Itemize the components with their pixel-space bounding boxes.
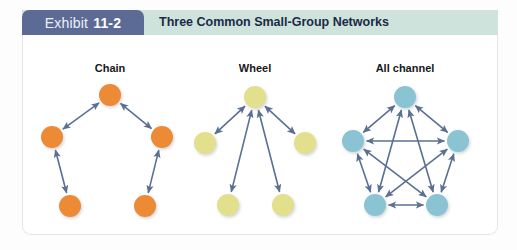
- exhibit-badge: Exhibit 11-2: [22, 10, 144, 35]
- exhibit-header: Exhibit 11-2 Three Common Small-Group Ne…: [22, 10, 498, 35]
- network-label-chain: Chain: [95, 62, 126, 74]
- exhibit-screenshot: Exhibit 11-2 Three Common Small-Group Ne…: [0, 0, 517, 250]
- exhibit-badge-number: 11-2: [93, 15, 121, 31]
- network-label-wheel: Wheel: [239, 62, 271, 74]
- network-label-all-channel: All channel: [376, 62, 435, 74]
- exhibit-title: Three Common Small-Group Networks: [159, 10, 389, 35]
- exhibit-badge-word: Exhibit: [45, 15, 88, 31]
